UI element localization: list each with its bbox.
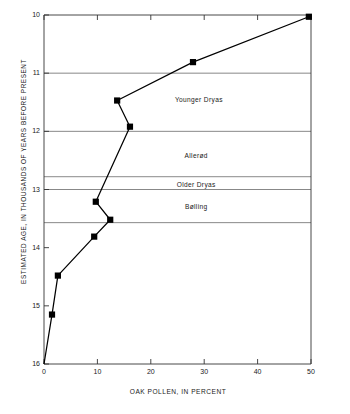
y-tick-label: 12 (14, 127, 40, 134)
y-tick-label: 14 (14, 244, 40, 251)
x-axis-title: OAK POLLEN, IN PERCENT (44, 388, 312, 395)
zone-label: Bølling (185, 202, 208, 209)
data-point-marker (306, 14, 312, 20)
x-tick-label: 0 (32, 368, 56, 375)
y-axis-tick-labels: 10111213141516 (8, 0, 40, 414)
data-point-marker (114, 97, 120, 103)
data-series-line (44, 17, 309, 364)
series-line (44, 17, 309, 364)
data-point-marker (107, 217, 113, 223)
data-point-marker (190, 59, 196, 65)
data-point-marker (127, 124, 133, 130)
data-point-markers (49, 14, 312, 318)
x-tick-label: 20 (139, 368, 163, 375)
y-tick-label: 15 (14, 302, 40, 309)
data-point-marker (91, 234, 97, 240)
y-tick-label: 13 (14, 186, 40, 193)
data-point-marker (49, 311, 55, 317)
zone-label: Allerød (185, 151, 208, 158)
zone-label: Older Dryas (177, 181, 216, 188)
x-tick-label: 40 (246, 368, 270, 375)
y-tick-label: 10 (14, 11, 40, 18)
y-tick-label: 11 (14, 69, 40, 76)
y-tick-label: 16 (14, 360, 40, 367)
plot-area (0, 0, 350, 414)
x-tick-label: 10 (85, 368, 109, 375)
data-point-marker (55, 272, 61, 278)
zone-label: Younger Dryas (175, 96, 223, 103)
pollen-age-chart: ESTIMATED AGE, IN THOUSANDS OF YEARS BEF… (0, 0, 350, 414)
x-tick-label: 30 (192, 368, 216, 375)
x-tick-label: 50 (299, 368, 323, 375)
data-point-marker (93, 199, 99, 205)
